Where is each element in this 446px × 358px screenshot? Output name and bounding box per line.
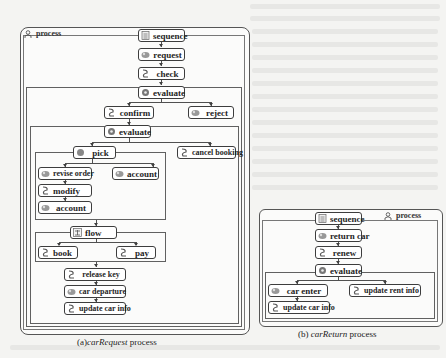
service-icon [41, 169, 50, 178]
node-modify[interactable]: modify [38, 184, 92, 197]
pick-icon [76, 148, 85, 157]
node-confirm[interactable]: confirm [104, 106, 154, 119]
node-evaluate-b[interactable]: evaluate [315, 264, 362, 277]
arrow [159, 44, 163, 47]
arrow [94, 264, 98, 267]
service-icon [67, 270, 76, 279]
connector [297, 280, 385, 281]
service-icon [180, 148, 189, 157]
service-icon [107, 108, 116, 117]
caption-a: (a)carRequest process [77, 337, 157, 347]
arrow [159, 63, 163, 66]
node-book[interactable]: book [38, 246, 78, 259]
node-check[interactable]: check [138, 67, 185, 80]
service-icon [141, 50, 150, 59]
node-revise-order[interactable]: revise order [38, 167, 92, 180]
flow-icon [73, 228, 82, 237]
process-icon [24, 30, 32, 38]
sequence-icon [318, 214, 327, 223]
node-request[interactable]: request [138, 48, 185, 61]
service-icon [191, 108, 200, 117]
node-evaluate[interactable]: evaluate [138, 86, 185, 99]
service-icon [271, 303, 280, 312]
caption-b: (b) carReturn process [298, 329, 377, 339]
service-icon [41, 203, 50, 212]
service-icon [141, 69, 150, 78]
node-cancel-booking[interactable]: cancel booking [177, 146, 236, 159]
service-icon [318, 248, 327, 257]
sequence-icon [141, 31, 150, 40]
evaluate-icon [107, 127, 116, 136]
connector [59, 242, 136, 243]
service-icon [67, 304, 76, 313]
process-icon [384, 212, 392, 220]
node-sequence[interactable]: sequence [138, 29, 185, 42]
connector [129, 102, 211, 103]
node-release-key[interactable]: release key [64, 268, 126, 281]
node-reject[interactable]: reject [188, 106, 234, 119]
service-icon [41, 186, 50, 195]
node-pick[interactable]: pick [73, 146, 116, 159]
frame-title-a: process [24, 29, 61, 38]
connector [92, 142, 210, 143]
node-pay[interactable]: pay [116, 246, 156, 259]
evaluate-icon [318, 266, 327, 275]
arrow [159, 82, 163, 85]
evaluate-icon [141, 88, 150, 97]
node-account-2[interactable]: account [38, 201, 92, 214]
node-update-rent-info[interactable]: update rent info [349, 284, 421, 297]
service-icon [352, 286, 361, 295]
node-evaluate-nested[interactable]: evaluate [104, 125, 151, 138]
node-renew[interactable]: renew [315, 246, 362, 259]
node-update-car-info-b[interactable]: update car info [268, 301, 330, 314]
service-icon [41, 248, 50, 257]
node-car-enter[interactable]: car enter [268, 284, 328, 297]
node-account[interactable]: account [112, 167, 159, 180]
node-car-departure[interactable]: car departure [64, 285, 126, 298]
service-icon [67, 287, 76, 296]
connector [65, 163, 153, 164]
node-return-car[interactable]: return car [315, 229, 362, 242]
frame-title-b: process [384, 211, 421, 220]
node-flow[interactable]: flow [70, 226, 117, 239]
node-sequence-b[interactable]: sequence [315, 212, 362, 225]
service-icon [318, 231, 327, 240]
service-icon [119, 248, 128, 257]
node-update-car-info[interactable]: update car info [64, 302, 126, 315]
service-icon [271, 286, 280, 295]
service-icon [115, 169, 124, 178]
